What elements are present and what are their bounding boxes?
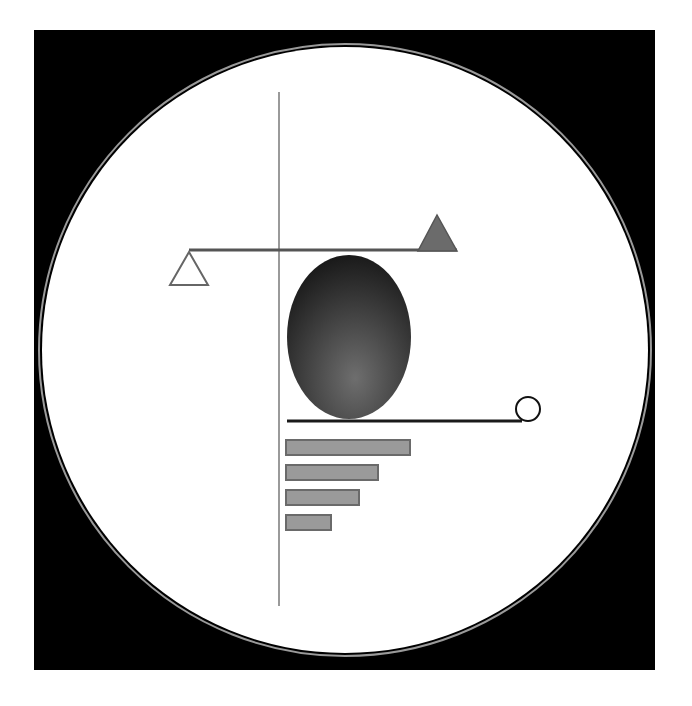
dark-egg-shape <box>287 255 411 419</box>
bar-1 <box>286 440 410 455</box>
abstract-composition <box>0 0 692 706</box>
bar-4 <box>286 515 331 530</box>
bar-2 <box>286 465 378 480</box>
small-circle-icon <box>516 397 540 421</box>
artwork-canvas <box>0 0 692 706</box>
bar-3 <box>286 490 359 505</box>
